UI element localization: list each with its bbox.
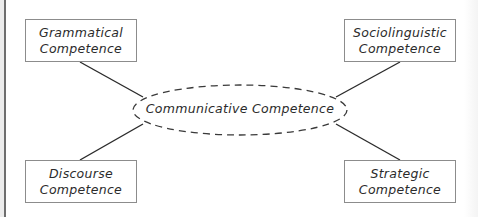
edge-strategic (336, 124, 400, 160)
node-sociolinguistic: Sociolinguistic Competence (344, 19, 456, 62)
node-label-line1: Sociolinguistic (353, 25, 447, 41)
edge-grammatical (80, 62, 143, 97)
node-strategic: Strategic Competence (344, 160, 456, 203)
node-label-line2: Competence (359, 182, 441, 198)
node-label-line1: Strategic (370, 166, 429, 182)
node-label-line2: Competence (40, 182, 122, 198)
node-discourse: Discourse Competence (25, 160, 137, 203)
node-label-line2: Competence (359, 41, 441, 57)
edge-discourse (80, 124, 143, 160)
node-label-line1: Discourse (49, 166, 113, 182)
node-grammatical: Grammatical Competence (25, 19, 137, 62)
node-label-line2: Competence (40, 41, 122, 57)
center-label: Communicative Competence (132, 100, 348, 118)
edge-sociolinguistic (336, 62, 400, 97)
node-label-line1: Grammatical (39, 25, 123, 41)
